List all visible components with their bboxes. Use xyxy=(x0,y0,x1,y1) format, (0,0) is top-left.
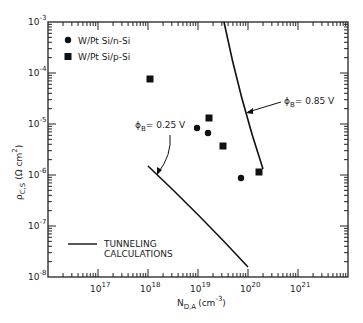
chart: 10-3 10-4 10-5 10-6 10-7 10-8 1017 1018 … xyxy=(0,0,363,323)
y-tick-labels: 10-3 10-4 10-5 10-6 10-7 10-8 xyxy=(28,14,47,282)
annotation-025: ϕB= 0.25 V xyxy=(135,120,186,175)
tunneling-legend: TUNNELING CALCULATIONS xyxy=(68,239,173,259)
svg-text:10-7: 10-7 xyxy=(28,218,46,231)
svg-text:ϕB= 0.25 V: ϕB= 0.25 V xyxy=(135,120,186,133)
square-marker-icon xyxy=(65,53,72,60)
circle-marker-icon xyxy=(65,37,71,43)
svg-text:10-4: 10-4 xyxy=(28,65,47,78)
svg-text:ϕB= 0.85 V: ϕB= 0.85 V xyxy=(284,96,335,109)
x-axis-label: ND,A(cm-3) xyxy=(177,295,226,311)
svg-text:1020: 1020 xyxy=(240,281,260,294)
svg-text:10-8: 10-8 xyxy=(28,269,46,282)
svg-text:1019: 1019 xyxy=(190,281,210,294)
x-tick-labels: 1017 1018 1019 1020 1021 xyxy=(90,281,310,294)
curve-085V xyxy=(224,22,263,169)
svg-text:1018: 1018 xyxy=(140,281,160,294)
svg-text:CALCULATIONS: CALCULATIONS xyxy=(104,249,173,259)
svg-text:10-5: 10-5 xyxy=(28,116,46,129)
svg-text:10-6: 10-6 xyxy=(28,167,47,180)
svg-text:1017: 1017 xyxy=(90,281,110,294)
svg-text:10-3: 10-3 xyxy=(28,14,46,27)
annotation-085: ϕB= 0.85 V xyxy=(246,96,335,114)
legend: W/Pt Si/n-Si W/Pt Si/p-Si xyxy=(65,36,131,62)
series-n-si xyxy=(194,125,244,181)
svg-text:1021: 1021 xyxy=(290,281,310,294)
y-axis-label: ρC,S(Ω cm2) xyxy=(11,145,27,200)
svg-text:W/Pt Si/n-Si: W/Pt Si/n-Si xyxy=(78,36,130,46)
svg-text:W/Pt Si/p-Si: W/Pt Si/p-Si xyxy=(78,52,130,62)
svg-text:TUNNELING: TUNNELING xyxy=(103,239,157,249)
